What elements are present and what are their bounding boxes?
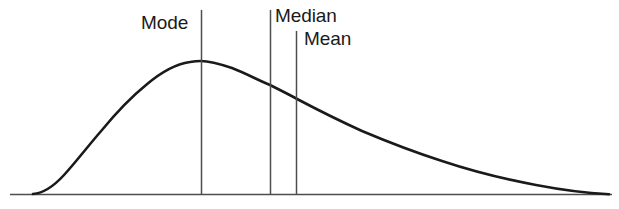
mean-label: Mean <box>304 29 351 48</box>
mode-label: Mode <box>141 13 188 32</box>
distribution-figure: Mode Median Mean <box>0 0 619 209</box>
median-label: Median <box>275 6 337 25</box>
density-curve <box>33 61 609 194</box>
